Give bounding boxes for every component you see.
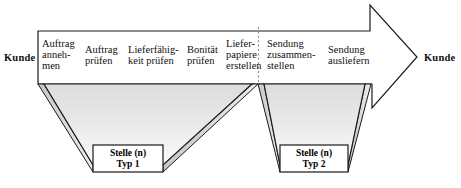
activity-sendung-zusammenstellen[interactable]: Sendung zusammen- stellen	[267, 38, 329, 71]
diagram-canvas: Kunde Kunde Auftrag anneh- men Auftrag p…	[0, 0, 461, 188]
activity-bonitaet-pruefen[interactable]: Bonität prüfen	[187, 44, 231, 66]
activity-sendung-ausliefern[interactable]: Sendung ausliefern	[328, 44, 384, 66]
process-chain-svg	[0, 0, 461, 188]
activity-auftrag-annehmen[interactable]: Auftrag anneh- men	[42, 38, 86, 71]
org-unit-typ2-line1: Stelle (n)	[280, 148, 348, 159]
activity-lieferfaehigkeit-pruefen[interactable]: Lieferfähig- keit prüfen	[128, 44, 190, 66]
org-unit-typ2-line2: Typ 2	[280, 159, 348, 170]
actor-left-kunde: Kunde	[4, 52, 35, 63]
actor-right-kunde: Kunde	[424, 52, 455, 63]
activity-auftrag-pruefen[interactable]: Auftrag prüfen	[85, 44, 129, 66]
org-unit-typ1[interactable]: Stelle (n) Typ 1	[93, 148, 163, 169]
activity-lieferpapiere-erstellen[interactable]: Liefer- papiere erstellen	[226, 38, 272, 71]
org-unit-typ1-line2: Typ 1	[93, 159, 163, 170]
org-unit-typ2[interactable]: Stelle (n) Typ 2	[280, 148, 348, 169]
org-unit-typ1-line1: Stelle (n)	[93, 148, 163, 159]
